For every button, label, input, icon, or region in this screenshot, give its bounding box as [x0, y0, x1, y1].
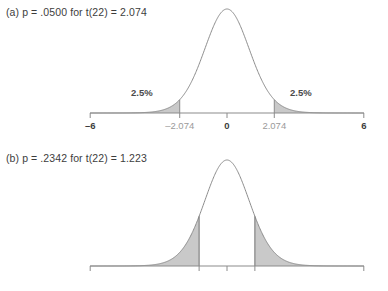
tick-label-min: –6	[85, 120, 96, 131]
left-tail-shade	[90, 100, 180, 113]
tick-label-neg-crit: –2.074	[165, 120, 194, 131]
x-axis-ticks	[90, 113, 364, 118]
tick-label-pos-crit: 2.074	[262, 120, 286, 131]
left-tail-shade	[90, 216, 199, 266]
right-tail-percent-label: 2.5%	[290, 87, 312, 98]
tick-label-max: 6	[361, 120, 366, 131]
tick-label-zero: 0	[224, 120, 229, 131]
panel-a-shaded-tails	[90, 100, 364, 113]
panel-b-shaded-tails	[90, 216, 364, 266]
t-distribution-curve	[90, 160, 364, 266]
right-tail-shade	[274, 100, 364, 113]
right-tail-shade	[255, 216, 364, 266]
left-tail-percent-label: 2.5%	[131, 87, 153, 98]
panel-b: (b) p = .2342 for t(22) = 1.223 11.7% 11…	[0, 146, 388, 291]
panel-a: (a) p = .0500 for t(22) = 2.074 2.5% 2.5…	[0, 0, 388, 145]
panel-b-svg	[0, 146, 388, 291]
x-axis-ticks	[90, 266, 364, 271]
panel-b-plot	[0, 146, 388, 291]
